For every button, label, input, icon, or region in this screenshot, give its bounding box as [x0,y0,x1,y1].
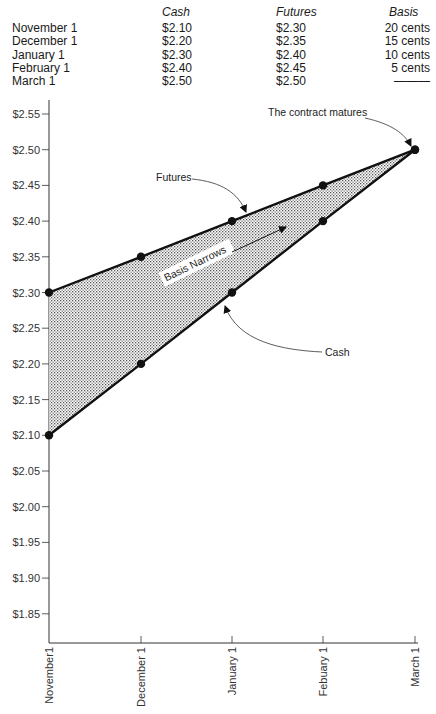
table-row: March 1$2.50$2.50——— [12,74,430,88]
plot-area [45,146,419,440]
futures-point [137,253,145,261]
futures-arrow-icon [192,179,246,212]
futures-point [228,217,236,225]
row-cash: $2.40 [162,61,192,75]
row-date: January 1 [12,48,65,62]
basis-chart: Cash Futures Basis November 1$2.10$2.302… [0,0,436,714]
x-tick-label: Febuary 1 [317,647,329,697]
table-header: Cash Futures Basis [162,5,418,19]
cash-point [228,288,236,296]
header-cash: Cash [162,5,190,19]
y-tick-label: $2.45 [12,179,40,191]
x-tick-label: January 1 [226,647,238,695]
row-cash: $2.50 [162,74,192,88]
row-futures: $2.50 [276,74,306,88]
table-rows: November 1$2.10$2.3020 centsDecember 1$2… [12,21,430,88]
row-cash: $2.10 [162,21,192,35]
cash-point [45,431,53,439]
row-cash: $2.30 [162,48,192,62]
row-futures: $2.35 [276,34,306,48]
annotation-cash: Cash [325,346,350,358]
y-tick-label: $2.55 [12,108,40,120]
row-basis: 5 cents [391,61,430,75]
table-row: January 1$2.30$2.4010 cents [12,48,430,62]
table-row: February 1$2.40$2.455 cents [12,61,430,75]
row-basis: 10 cents [385,48,430,62]
annotation-contract-matures: The contract matures [268,106,367,118]
y-tick-label: $2.20 [12,358,40,370]
y-tick-label: $1.95 [12,536,40,548]
row-date: March 1 [12,74,56,88]
y-tick-label: $2.50 [12,144,40,156]
y-tick-label: $2.30 [12,287,40,299]
row-date: November 1 [12,21,78,35]
x-tick-label: March 1 [409,647,421,687]
y-tick-label: $2.40 [12,215,40,227]
y-tick-label: $2.00 [12,501,40,513]
row-basis: 20 cents [385,21,430,35]
x-tick-label: November1 [43,647,55,704]
cash-point [411,146,419,154]
row-futures: $2.45 [276,61,306,75]
y-tick-label: $2.35 [12,251,40,263]
y-axis-ticks: $2.55$2.50$2.45$2.40$2.35$2.30$2.25$2.20… [12,108,49,620]
row-basis: 15 cents [385,34,430,48]
header-basis: Basis [389,5,418,19]
price-table: Cash Futures Basis November 1$2.10$2.302… [12,5,430,88]
row-date: February 1 [12,61,70,75]
futures-point [319,181,327,189]
row-futures: $2.30 [276,21,306,35]
x-tick-label: December 1 [135,647,147,707]
cash-point [137,360,145,368]
futures-point [45,288,53,296]
y-tick-label: $2.15 [12,394,40,406]
table-row: November 1$2.10$2.3020 cents [12,21,430,35]
cash-arrow-icon [225,306,322,352]
row-date: December 1 [12,34,78,48]
y-tick-label: $2.10 [12,429,40,441]
x-axis-ticks: November1December 1January 1Febuary 1Mar… [43,636,421,707]
y-tick-label: $2.05 [12,465,40,477]
row-basis: ——— [394,74,430,88]
y-tick-label: $2.25 [12,322,40,334]
annotation-futures: Futures [156,171,192,183]
y-tick-label: $1.90 [12,572,40,584]
y-tick-label: $1.85 [12,608,40,620]
row-futures: $2.40 [276,48,306,62]
header-futures: Futures [276,5,317,19]
contract-matures-arrow-icon [365,118,411,146]
row-cash: $2.20 [162,34,192,48]
cash-point [319,217,327,225]
table-row: December 1$2.20$2.3515 cents [12,34,430,48]
